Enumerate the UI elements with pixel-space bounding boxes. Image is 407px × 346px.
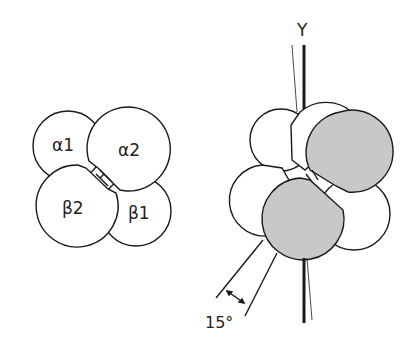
tetramer-rotated-view	[216, 45, 393, 323]
tilted-axis-bottom	[307, 258, 312, 320]
hemoglobin-diagram: α1 α2 β2 β1 Y 15°	[0, 0, 407, 346]
label-beta1: β1	[128, 203, 150, 223]
y-axis-label: Y	[296, 20, 308, 40]
bridge-tick	[100, 174, 104, 178]
angle-line-1	[216, 240, 263, 298]
tilted-axis-top	[292, 45, 297, 112]
angle-line-2	[245, 253, 277, 316]
angle-label: 15°	[205, 313, 233, 332]
subunit-shaded-upper	[306, 110, 393, 192]
tetramer-front-view	[33, 107, 171, 247]
label-beta2: β2	[62, 198, 84, 218]
label-alpha2: α2	[118, 140, 140, 160]
label-alpha1: α1	[52, 135, 74, 155]
